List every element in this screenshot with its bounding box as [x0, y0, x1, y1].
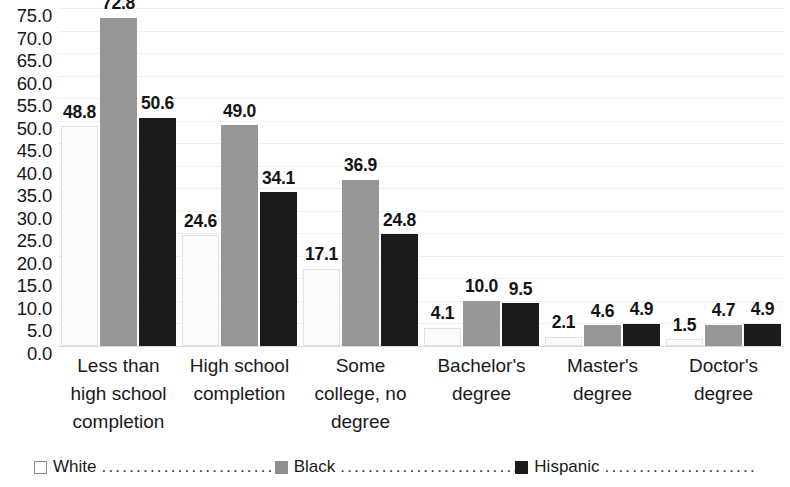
x-axis-label-line: degree	[653, 380, 790, 408]
bar-black-2[interactable]	[342, 180, 379, 346]
chart-legend: White...................................…	[0, 452, 790, 482]
legend-swatch-icon	[34, 461, 47, 474]
bar-white-1[interactable]	[182, 235, 219, 346]
bar-white-5[interactable]	[666, 339, 703, 346]
bar-black-1[interactable]	[221, 125, 258, 346]
x-axis-label-5: Doctor'sdegree	[653, 352, 790, 408]
bar-group: 48.872.850.6	[58, 8, 179, 346]
legend-label: Hispanic	[534, 457, 599, 477]
bar-value-label: 50.6	[131, 95, 184, 113]
x-axis-label-line: completion	[48, 408, 189, 436]
bar-group: 2.14.64.9	[542, 8, 663, 346]
bar-white-3[interactable]	[424, 328, 461, 346]
bar-white-2[interactable]	[303, 269, 340, 346]
bar-black-0[interactable]	[100, 18, 137, 346]
bar-group: 24.649.034.1	[179, 8, 300, 346]
y-axis-tick-label: 75.0	[0, 7, 52, 26]
x-axis-label-line: college, no	[290, 380, 431, 408]
y-axis: 75.070.065.060.055.050.045.040.035.030.0…	[0, 8, 52, 346]
y-axis-tick-label: 30.0	[0, 210, 52, 229]
legend-swatch-icon	[515, 461, 528, 474]
bar-hispanic-5[interactable]	[744, 324, 781, 346]
legend-leader-dots: ........................................…	[340, 457, 515, 477]
y-axis-tick-label: 50.0	[0, 119, 52, 138]
x-axis-label-line: degree	[290, 408, 431, 436]
x-axis-label-2: Somecollege, nodegree	[290, 352, 431, 436]
x-axis-label-line: Bachelor's	[411, 352, 552, 380]
x-axis-label-line: high school	[48, 380, 189, 408]
x-axis-label-line: degree	[411, 380, 552, 408]
x-axis-label-4: Master'sdegree	[532, 352, 673, 408]
x-axis-label-line: Master's	[532, 352, 673, 380]
x-axis-category-labels: Less thanhigh schoolcompletionHigh schoo…	[58, 352, 784, 444]
bar-value-label: 24.8	[373, 212, 426, 230]
bar-value-label: 24.6	[174, 213, 227, 231]
bar-black-5[interactable]	[705, 325, 742, 346]
gridline	[58, 346, 784, 347]
bar-hispanic-3[interactable]	[502, 303, 539, 346]
legend-item-white[interactable]: White...................................…	[34, 457, 275, 477]
y-axis-tick-label: 10.0	[0, 300, 52, 319]
y-axis-tick-label: 60.0	[0, 74, 52, 93]
bar-value-label: 72.8	[92, 0, 145, 13]
y-axis-tick-label: 25.0	[0, 232, 52, 251]
x-axis-label-line: degree	[532, 380, 673, 408]
legend-label: Black	[294, 457, 336, 477]
y-axis-tick-label: 35.0	[0, 187, 52, 206]
bar-value-label: 4.1	[416, 305, 469, 323]
x-axis-label-3: Bachelor'sdegree	[411, 352, 552, 408]
legend-leader-dots: ........................................…	[605, 457, 756, 477]
legend-leader-dots: ........................................…	[101, 457, 274, 477]
x-axis-label-line: Doctor's	[653, 352, 790, 380]
y-axis-tick-label: 40.0	[0, 164, 52, 183]
x-axis-label-line: High school	[169, 352, 310, 380]
x-axis-label-line: completion	[169, 380, 310, 408]
legend-item-hispanic[interactable]: Hispanic................................…	[515, 457, 756, 477]
bar-white-0[interactable]	[61, 126, 98, 346]
y-axis-tick-label: 45.0	[0, 142, 52, 161]
x-axis-label-line: Less than	[48, 352, 189, 380]
y-axis-tick-label: 55.0	[0, 97, 52, 116]
bar-chart: 75.070.065.060.055.050.045.040.035.030.0…	[0, 0, 790, 487]
bar-value-label: 49.0	[213, 103, 266, 121]
bar-black-4[interactable]	[584, 325, 621, 346]
bar-value-label: 17.1	[295, 246, 348, 264]
bar-value-label: 48.8	[53, 104, 106, 122]
y-axis-tick-label: 0.0	[0, 345, 52, 364]
bar-group: 1.54.74.9	[663, 8, 784, 346]
bar-value-label: 9.5	[494, 281, 547, 299]
x-axis-label-line: Some	[290, 352, 431, 380]
bar-group: 4.110.09.5	[421, 8, 542, 346]
bar-black-3[interactable]	[463, 301, 500, 346]
bar-hispanic-4[interactable]	[623, 324, 660, 346]
x-axis-label-0: Less thanhigh schoolcompletion	[48, 352, 189, 436]
bar-hispanic-2[interactable]	[381, 234, 418, 346]
y-axis-tick-label: 65.0	[0, 52, 52, 71]
y-axis-tick-label: 70.0	[0, 29, 52, 48]
y-axis-tick-label: 15.0	[0, 277, 52, 296]
bar-hispanic-1[interactable]	[260, 192, 297, 346]
bar-value-label: 34.1	[252, 170, 305, 188]
y-axis-tick-label: 5.0	[0, 322, 52, 341]
legend-item-black[interactable]: Black...................................…	[275, 457, 516, 477]
bar-hispanic-0[interactable]	[139, 118, 176, 346]
bar-group: 17.136.924.8	[300, 8, 421, 346]
bar-white-4[interactable]	[545, 337, 582, 346]
x-axis-label-1: High schoolcompletion	[169, 352, 310, 408]
bar-value-label: 4.9	[736, 301, 789, 319]
bar-value-label: 36.9	[334, 157, 387, 175]
legend-label: White	[53, 457, 96, 477]
legend-swatch-icon	[275, 461, 288, 474]
y-axis-tick-label: 20.0	[0, 255, 52, 274]
plot-area: 48.872.850.624.649.034.117.136.924.84.11…	[58, 8, 784, 346]
